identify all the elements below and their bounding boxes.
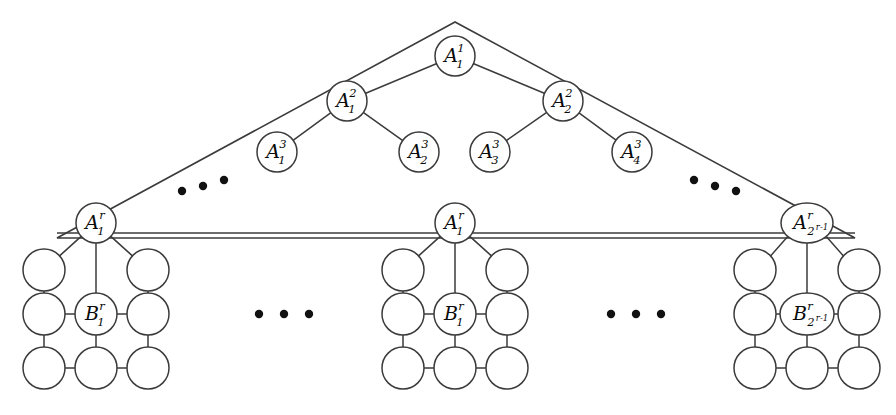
grid-edge-anchor-topright	[470, 236, 492, 256]
node-a3-1-superscript: 3	[279, 137, 286, 151]
grid-plain-node[interactable]	[127, 293, 169, 335]
ellipsis-dots-grids-right	[607, 310, 665, 318]
node-a2-1-subscript: 1	[348, 102, 355, 116]
tree-edge	[292, 112, 331, 141]
grid-plain-node[interactable]	[486, 249, 528, 291]
grid-plain-node[interactable]	[75, 347, 117, 389]
grid-b-node-subscript: 1	[456, 315, 463, 329]
node-a3-2-superscript: 3	[421, 137, 428, 151]
grid-plain-node[interactable]	[838, 293, 880, 335]
tree-node-a2-2[interactable]: A22	[543, 81, 583, 121]
tree-node-a3-3[interactable]: A33	[470, 132, 510, 172]
ellipsis-dot	[178, 187, 186, 195]
grid-edge-anchor-topleft	[419, 236, 441, 256]
tree-edge	[473, 63, 546, 93]
ellipsis-dots-tree-left	[178, 176, 228, 195]
ellipsis-dot	[255, 310, 263, 318]
node-a2-2-superscript: 2	[564, 86, 572, 100]
tree-node-a3-4[interactable]: A34	[612, 132, 652, 172]
node-a1-1-subscript: 1	[456, 57, 463, 71]
grid-plain-node[interactable]	[23, 293, 65, 335]
node-ar-right-subscript: 2	[806, 224, 814, 238]
grid-plain-node[interactable]	[734, 249, 776, 291]
node-a3-2-subscript: 2	[419, 153, 427, 167]
grid-b-node[interactable]: Br1	[434, 293, 476, 335]
grid-b-node-subscript: 2	[806, 315, 814, 329]
ellipsis-dot	[199, 182, 207, 190]
ellipsis-dot	[711, 182, 719, 190]
grid-b-node-base-letter: B	[792, 302, 807, 324]
ellipsis-dot	[632, 310, 640, 318]
figure-root: Br1Br1Br2r-1 A11A21A22A31A32A33A34Ar1Ar1…	[0, 0, 896, 415]
grid-edge-anchor-topright	[826, 236, 843, 256]
ellipsis-dot	[280, 310, 288, 318]
grid-b-node-subscript-exponent: r-1	[816, 313, 828, 323]
grid-plain-node[interactable]	[734, 293, 776, 335]
node-ar-mid-subscript: 1	[456, 224, 463, 238]
node-a2-1-superscript: 2	[348, 86, 356, 100]
tree-node-group: A11A21A22A31A32A33A34Ar1Ar1Ar2r-1	[76, 36, 833, 243]
grid-plain-node[interactable]	[838, 347, 880, 389]
tree-node-ar-left[interactable]: Ar1	[76, 203, 116, 243]
grid-plain-node[interactable]	[382, 293, 424, 335]
ellipsis-dots-grids-left	[255, 310, 313, 318]
grid-plain-node[interactable]	[434, 347, 476, 389]
tree-edge	[506, 112, 548, 141]
grid-plain-node[interactable]	[127, 347, 169, 389]
grid-b-node[interactable]: Br1	[75, 293, 117, 335]
grid-edge-anchor-topleft	[771, 236, 788, 256]
grid-b-node-subscript: 1	[97, 315, 104, 329]
grid-plain-node[interactable]	[382, 347, 424, 389]
grid-node-group: Br1Br1Br2r-1	[23, 249, 880, 389]
node-a1-1-superscript: 1	[457, 41, 464, 55]
grid-plain-node[interactable]	[23, 347, 65, 389]
tree-grid-diagram: Br1Br1Br2r-1 A11A21A22A31A32A33A34Ar1Ar1…	[0, 0, 896, 415]
node-ar-left-subscript: 1	[97, 224, 104, 238]
node-ar-right-subscript-exponent: r-1	[816, 222, 828, 232]
ellipsis-dot	[690, 176, 698, 184]
grid-plain-node[interactable]	[23, 249, 65, 291]
grid-b-node[interactable]: Br2r-1	[780, 293, 834, 335]
ellipsis-dot	[305, 310, 313, 318]
tree-node-a3-1[interactable]: A31	[257, 132, 297, 172]
tree-edge	[363, 112, 404, 141]
node-a3-4-superscript: 3	[634, 137, 641, 151]
grid-plain-node[interactable]	[486, 293, 528, 335]
ellipsis-dot	[732, 187, 740, 195]
node-a3-3-subscript: 3	[491, 153, 498, 167]
ellipsis-dots-tree-right	[690, 176, 740, 195]
tree-node-a2-1[interactable]: A21	[327, 81, 367, 121]
grid-plain-node[interactable]	[786, 347, 828, 389]
tree-edge	[578, 112, 616, 140]
node-ar-right-base-letter: A	[791, 211, 807, 233]
node-a2-2-subscript: 2	[563, 102, 571, 116]
ellipsis-dot	[220, 176, 228, 184]
grid-edge-anchor-topright	[111, 236, 133, 256]
node-a3-3-superscript: 3	[492, 137, 499, 151]
grid-plain-node[interactable]	[127, 249, 169, 291]
node-a3-4-subscript: 4	[632, 153, 640, 167]
ellipsis-dot	[657, 310, 665, 318]
tree-node-ar-mid[interactable]: Ar1	[435, 203, 475, 243]
grid-plain-node[interactable]	[734, 347, 776, 389]
grid-edge-anchor-topleft	[60, 236, 82, 256]
node-a3-1-subscript: 1	[278, 153, 285, 167]
tree-node-a1-1[interactable]: A11	[435, 36, 475, 76]
grid-plain-node[interactable]	[838, 249, 880, 291]
tree-edge	[365, 63, 438, 93]
grid-plain-node[interactable]	[382, 249, 424, 291]
ellipsis-dot	[607, 310, 615, 318]
tree-node-ar-right[interactable]: Ar2r-1	[781, 203, 833, 243]
tree-node-a3-2[interactable]: A32	[399, 132, 439, 172]
grid-plain-node[interactable]	[486, 347, 528, 389]
